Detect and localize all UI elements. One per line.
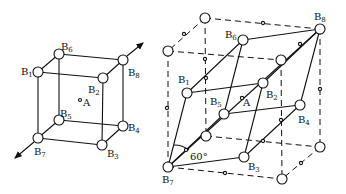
svg-text:A: A <box>82 97 91 108</box>
svg-text:B1: B1 <box>21 66 33 79</box>
svg-text:B8: B8 <box>128 67 140 80</box>
svg-text:B3: B3 <box>107 148 119 161</box>
svg-text:B1: B1 <box>178 74 190 87</box>
svg-text:B5: B5 <box>210 96 222 109</box>
svg-text:B7: B7 <box>162 174 174 187</box>
svg-text:B2: B2 <box>266 89 278 102</box>
svg-text:B3: B3 <box>248 161 260 174</box>
svg-text:B8: B8 <box>314 11 326 24</box>
crystal-lattice-diagram: B6 B1 B2 B8 B5 B4 B7 B3 A <box>0 0 346 194</box>
svg-text:B7: B7 <box>34 146 46 159</box>
svg-text:B6: B6 <box>225 29 237 42</box>
svg-text:B4: B4 <box>128 122 140 135</box>
svg-text:B4: B4 <box>298 114 310 127</box>
svg-text:B2: B2 <box>88 84 100 97</box>
svg-text:60°: 60° <box>190 151 208 162</box>
